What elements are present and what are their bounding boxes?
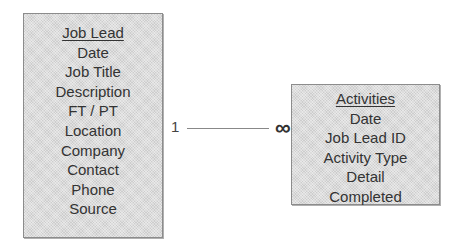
- cardinality-many: ∞: [275, 115, 291, 141]
- field-date: Date: [292, 109, 439, 129]
- field-detail: Detail: [292, 167, 439, 187]
- field-company: Company: [24, 141, 162, 161]
- field-job-title: Job Title: [24, 62, 162, 82]
- field-ft-pt: FT / PT: [24, 101, 162, 121]
- field-phone: Phone: [24, 180, 162, 200]
- cardinality-one: 1: [171, 118, 179, 135]
- field-location: Location: [24, 121, 162, 141]
- entity-title: Job Lead: [24, 23, 162, 43]
- field-source: Source: [24, 199, 162, 219]
- field-description: Description: [24, 82, 162, 102]
- field-date: Date: [24, 43, 162, 63]
- field-completed: Completed: [292, 187, 439, 207]
- field-activity-type: Activity Type: [292, 148, 439, 168]
- entity-job-lead: Job Lead Date Job Title Description FT /…: [23, 13, 163, 238]
- relationship-line: [187, 128, 269, 129]
- field-contact: Contact: [24, 160, 162, 180]
- entity-title: Activities: [292, 89, 439, 109]
- entity-activities: Activities Date Job Lead ID Activity Typ…: [291, 84, 440, 205]
- field-job-lead-id: Job Lead ID: [292, 128, 439, 148]
